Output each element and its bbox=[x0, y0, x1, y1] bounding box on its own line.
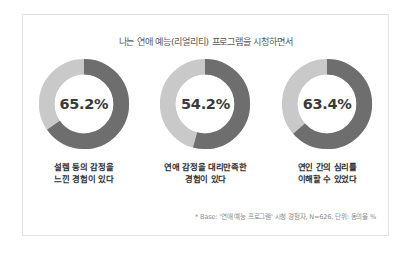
donut-value-2: 54.2% bbox=[156, 55, 254, 153]
donut-value-1: 65.2% bbox=[35, 55, 133, 153]
donut-chart-2: 54.2% bbox=[156, 55, 254, 153]
donut-chart-1: 65.2% bbox=[35, 55, 133, 153]
donut-label-1: 설렘 등의 감정을 느낀 경험이 있다 bbox=[54, 162, 113, 186]
donut-item-2: 54.2% 연애 감정을 대리만족한 경험이 있다 bbox=[146, 55, 264, 186]
donut-label-3: 연인 간의 심리를 이해할 수 있었다 bbox=[298, 162, 357, 186]
footnote-text: * Base: '연애 예능 프로그램' 시청 경험자, N=626, 단위: … bbox=[195, 211, 376, 221]
donut-chart-group: 65.2% 설렘 등의 감정을 느낀 경험이 있다 54.2% 연애 감정을 대… bbox=[23, 55, 388, 186]
donut-value-3: 63.4% bbox=[278, 55, 376, 153]
donut-chart-3: 63.4% bbox=[278, 55, 376, 153]
donut-item-3: 63.4% 연인 간의 심리를 이해할 수 있었다 bbox=[268, 55, 386, 186]
donut-item-1: 65.2% 설렘 등의 감정을 느낀 경험이 있다 bbox=[25, 55, 143, 186]
page-title: 나는 연애 예능(리얼리티) 프로그램을 시청하면서 bbox=[23, 34, 388, 48]
chart-card: 나는 연애 예능(리얼리티) 프로그램을 시청하면서 65.2% 설렘 등의 감… bbox=[22, 14, 389, 236]
donut-label-2: 연애 감정을 대리만족한 경험이 있다 bbox=[164, 162, 246, 186]
